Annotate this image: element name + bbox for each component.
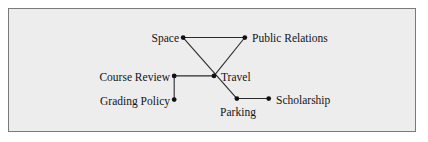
node-dot-space[interactable] [181,35,186,40]
node-dot-grading_policy[interactable] [172,97,177,102]
node-label-travel: Travel [221,71,251,83]
graph-canvas [9,9,415,131]
node-label-space: Space [152,32,179,44]
node-label-course_review: Course Review [99,71,170,83]
node-label-grading_policy: Grading Policy [100,95,170,107]
node-label-public_relations: Public Relations [252,32,328,44]
node-dot-scholarship[interactable] [266,96,271,101]
node-dot-parking[interactable] [234,96,239,101]
node-label-scholarship: Scholarship [276,94,330,106]
edge-layer [174,38,269,100]
edge-space-parking [183,38,237,99]
node-dot-travel[interactable] [212,74,217,79]
figure-frame: SpacePublic RelationsCourse ReviewTravel… [8,8,416,132]
node-dot-public_relations[interactable] [242,35,247,40]
node-dot-course_review[interactable] [172,74,177,79]
node-layer [172,35,271,102]
node-label-parking: Parking [220,106,256,118]
